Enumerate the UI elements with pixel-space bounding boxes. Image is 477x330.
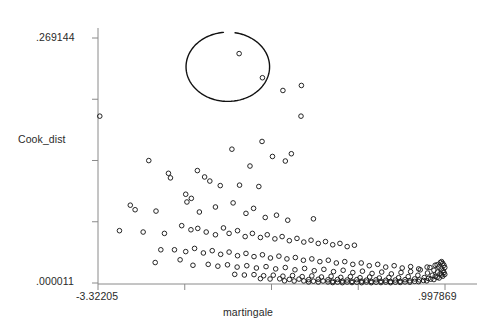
data-point bbox=[289, 151, 294, 156]
data-point bbox=[221, 226, 226, 231]
data-point bbox=[242, 273, 247, 278]
data-point bbox=[162, 231, 167, 236]
data-point bbox=[383, 265, 388, 270]
data-point bbox=[330, 242, 335, 247]
data-point bbox=[268, 277, 273, 282]
data-point bbox=[191, 263, 196, 268]
data-point bbox=[273, 267, 278, 272]
data-point bbox=[400, 266, 405, 271]
data-point bbox=[283, 265, 288, 270]
data-point bbox=[293, 268, 298, 273]
data-point bbox=[280, 234, 285, 239]
data-point bbox=[408, 264, 413, 269]
data-point bbox=[172, 247, 177, 252]
data-point bbox=[265, 232, 270, 237]
x-axis-ticks bbox=[98, 284, 445, 290]
data-point bbox=[345, 244, 350, 249]
data-point bbox=[260, 252, 265, 257]
data-point bbox=[133, 207, 138, 212]
data-point bbox=[204, 230, 209, 235]
data-point bbox=[293, 255, 298, 260]
data-point bbox=[277, 277, 282, 282]
data-point bbox=[202, 175, 207, 180]
data-point bbox=[185, 200, 190, 205]
x-axis-tick-label-min: -3.32205 bbox=[76, 290, 118, 302]
data-point bbox=[309, 238, 314, 243]
data-point bbox=[263, 215, 268, 220]
data-point bbox=[310, 257, 315, 262]
data-point bbox=[232, 272, 237, 277]
data-point bbox=[352, 243, 357, 248]
data-point bbox=[235, 228, 240, 233]
data-point bbox=[292, 279, 297, 284]
data-point bbox=[302, 240, 307, 245]
data-point bbox=[189, 227, 194, 232]
data-point bbox=[243, 234, 248, 239]
data-point bbox=[321, 279, 326, 284]
data-point bbox=[210, 248, 215, 253]
data-point bbox=[197, 210, 202, 215]
data-point bbox=[166, 171, 171, 176]
data-point bbox=[252, 272, 257, 277]
data-point bbox=[235, 253, 240, 258]
data-point bbox=[299, 114, 304, 119]
data-point bbox=[287, 277, 292, 282]
data-point bbox=[168, 176, 173, 181]
data-point bbox=[287, 238, 292, 243]
data-point bbox=[216, 264, 221, 269]
data-point bbox=[322, 267, 327, 272]
data-point bbox=[282, 279, 287, 284]
data-point bbox=[302, 266, 307, 271]
data-point bbox=[425, 271, 430, 276]
data-point bbox=[154, 209, 159, 214]
data-point bbox=[195, 168, 200, 173]
data-point bbox=[248, 164, 253, 169]
data-point bbox=[316, 241, 321, 246]
data-point bbox=[128, 203, 133, 208]
data-point bbox=[399, 270, 404, 275]
data-point bbox=[218, 183, 223, 188]
data-point bbox=[146, 158, 151, 163]
data-point bbox=[230, 147, 235, 152]
data-point bbox=[258, 276, 263, 281]
data-point bbox=[235, 265, 240, 270]
data-point bbox=[244, 211, 249, 216]
data-point bbox=[274, 213, 279, 218]
data-point bbox=[375, 262, 380, 267]
data-point bbox=[237, 183, 242, 188]
data-point bbox=[179, 223, 184, 228]
data-point bbox=[311, 217, 316, 222]
y-axis-ticks bbox=[92, 38, 98, 283]
data-point bbox=[252, 254, 257, 259]
data-point bbox=[257, 184, 262, 189]
data-point bbox=[367, 263, 372, 268]
data-point bbox=[183, 249, 188, 254]
data-point bbox=[218, 252, 223, 257]
data-point bbox=[201, 251, 206, 256]
data-point bbox=[237, 51, 242, 56]
data-point bbox=[208, 179, 213, 184]
data-point bbox=[231, 201, 236, 206]
data-point bbox=[270, 154, 275, 159]
outlier-ellipse-annotation bbox=[186, 32, 270, 101]
data-point bbox=[318, 259, 323, 264]
data-point bbox=[117, 228, 122, 233]
data-point bbox=[178, 258, 183, 263]
data-point bbox=[297, 277, 302, 282]
data-point bbox=[260, 75, 265, 80]
data-point bbox=[408, 269, 413, 274]
data-point bbox=[302, 279, 307, 284]
data-point bbox=[285, 218, 290, 223]
data-point bbox=[183, 192, 188, 197]
data-point bbox=[295, 236, 300, 241]
data-point bbox=[301, 258, 306, 263]
y-axis-tick-label-min: .000011 bbox=[36, 275, 74, 287]
data-point bbox=[273, 237, 278, 242]
data-point bbox=[195, 226, 200, 231]
data-point bbox=[379, 270, 384, 275]
data-point bbox=[225, 263, 230, 268]
data-point bbox=[254, 266, 259, 271]
data-point bbox=[312, 268, 317, 273]
data-point bbox=[264, 264, 269, 269]
data-point bbox=[360, 269, 365, 274]
